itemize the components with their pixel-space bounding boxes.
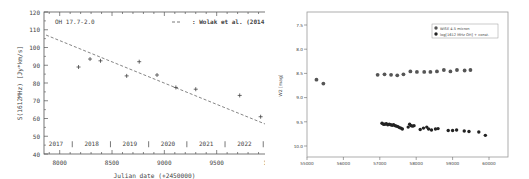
- data-point-plus: [125, 74, 129, 78]
- y-tick-label: 9.0: [296, 95, 303, 100]
- wise-lightcurve-plot: 7.58.08.59.09.510.0550005600057000580005…: [265, 0, 529, 179]
- x-tick-label: 8000: [52, 159, 67, 166]
- data-point-plus: [259, 115, 263, 119]
- data-point-plus: [238, 93, 242, 97]
- wise-data-point: [402, 72, 406, 76]
- wise-data-point: [463, 69, 467, 73]
- oh-data-point: [436, 127, 439, 130]
- year-label: 2019: [123, 140, 138, 147]
- year-label: 2017: [49, 140, 64, 147]
- x-tick-label: 57000: [373, 161, 387, 166]
- data-point-plus: [88, 57, 92, 61]
- y-tick-label: 9.5: [296, 120, 303, 125]
- y-tick-label: 40: [33, 151, 41, 158]
- oh-data-point: [484, 134, 487, 137]
- oh-flux-plot: 4050607080901001101208000850090009500100…: [0, 0, 265, 179]
- oh-data-point: [406, 125, 409, 128]
- y-tick-label: 7.5: [296, 23, 303, 28]
- oh-data-point: [467, 130, 470, 133]
- y-tick-label: 110: [29, 26, 40, 33]
- model-trend-line: [46, 35, 265, 126]
- wise-data-point: [415, 70, 419, 74]
- x-tick-label: 9500: [209, 159, 224, 166]
- wise-data-point: [315, 78, 319, 82]
- year-label: 2018: [84, 140, 99, 147]
- x-tick-label: 9000: [157, 159, 172, 166]
- data-point-plus: [137, 60, 141, 64]
- oh-data-point: [463, 129, 466, 132]
- oh-flux-chart: 4050607080901001101208000850090009500100…: [0, 0, 265, 179]
- oh-data-point: [412, 124, 415, 127]
- y-tick-label: 8.0: [296, 47, 303, 52]
- data-point-plus: [155, 73, 159, 77]
- oh-data-point: [427, 127, 430, 130]
- data-point-plus: [77, 65, 81, 69]
- wise-data-point: [442, 68, 446, 72]
- wise-data-point: [455, 68, 459, 72]
- plot-frame: [44, 12, 265, 154]
- object-label: OH 17.7-2.0: [55, 18, 95, 25]
- y-axis-label: W2 [mag]: [278, 74, 283, 96]
- x-tick-label: 58000: [410, 161, 424, 166]
- oh-data-point: [477, 130, 480, 133]
- oh-data-point: [447, 129, 450, 132]
- wise-lightcurve-chart: 7.58.08.59.09.510.0550005600057000580005…: [265, 0, 529, 179]
- oh-data-point: [451, 129, 454, 132]
- y-tick-label: 60: [33, 115, 41, 122]
- oh-data-point: [401, 127, 404, 130]
- wise-data-point: [435, 70, 439, 74]
- wise-data-point: [449, 70, 453, 74]
- y-tick-label: 120: [29, 9, 40, 16]
- wise-data-point: [408, 70, 412, 74]
- x-tick-label: 8500: [105, 159, 120, 166]
- data-point-plus: [194, 87, 198, 91]
- wise-data-point: [383, 72, 387, 76]
- y-axis-label: S(1612MHz) [Jy*km/s]: [16, 46, 24, 121]
- x-tick-label: 55000: [300, 161, 314, 166]
- legend-marker-wise: [434, 26, 437, 29]
- wise-data-point: [422, 70, 426, 74]
- y-tick-label: 80: [33, 80, 41, 87]
- x-tick-label: 60000: [482, 161, 496, 166]
- oh-data-point: [419, 128, 422, 131]
- year-label: 2022: [237, 140, 252, 147]
- oh-data-point: [455, 128, 458, 131]
- oh-data-point: [430, 128, 433, 131]
- data-point-plus: [174, 85, 178, 89]
- legend-label: : Wolak et al. (2014): [192, 18, 265, 25]
- y-tick-label: 8.5: [296, 71, 303, 76]
- wise-data-point: [428, 70, 432, 74]
- y-tick-label: 90: [33, 62, 41, 69]
- y-tick-label: 10.0: [294, 144, 304, 149]
- wise-data-point: [395, 73, 399, 77]
- x-axis-label: Julian date (+2450000): [114, 172, 196, 179]
- wise-data-point: [376, 73, 380, 77]
- data-point-plus: [99, 59, 103, 63]
- oh-data-point: [422, 126, 425, 129]
- year-label: 2021: [199, 140, 214, 147]
- wise-data-point: [389, 73, 393, 77]
- y-tick-label: 70: [33, 97, 41, 104]
- legend-marker-oh: [434, 32, 437, 35]
- x-tick-label: 56000: [337, 161, 351, 166]
- legend-label-oh: log[1612 MHz OH] + const.: [440, 33, 489, 37]
- wise-data-point: [321, 82, 325, 86]
- x-tick-label: 59000: [446, 161, 460, 166]
- wise-data-point: [469, 68, 473, 72]
- y-tick-label: 100: [29, 44, 40, 51]
- y-tick-label: 50: [33, 133, 41, 140]
- year-label: 2020: [161, 140, 176, 147]
- legend-label-wise: WISE 4.5 micron: [440, 27, 470, 31]
